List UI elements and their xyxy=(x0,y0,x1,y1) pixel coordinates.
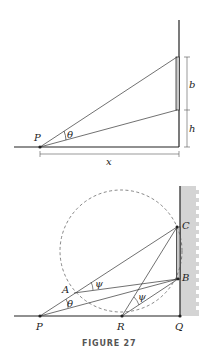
figure-caption: FIGURE 27 xyxy=(82,339,136,348)
psi-arc-a xyxy=(91,282,93,290)
painting-bar xyxy=(177,227,181,279)
line-pc xyxy=(40,227,177,316)
label-psi-a: ψ xyxy=(95,278,103,289)
point-b-dot xyxy=(177,278,180,281)
point-q-dot xyxy=(178,314,181,317)
line-rb xyxy=(122,279,178,316)
line-rc xyxy=(122,227,177,316)
label-p: P xyxy=(33,132,41,143)
painting-bar xyxy=(176,57,180,110)
bottom-figure: A B C P R Q θ ψ ψ FIGURE 27 xyxy=(14,186,199,348)
figure-canvas: P θ b h x xyxy=(0,0,213,363)
point-c-dot xyxy=(176,226,179,229)
label-q: Q xyxy=(175,321,183,332)
point-p-dot xyxy=(38,145,41,148)
line-ab xyxy=(74,279,178,293)
point-r-dot xyxy=(120,314,123,317)
label-b: B xyxy=(181,272,189,283)
dashed-circle xyxy=(60,190,182,312)
label-h: h xyxy=(189,123,195,134)
top-figure: P θ b h x xyxy=(14,20,195,167)
theta-arc xyxy=(64,131,66,140)
label-a: A xyxy=(61,284,69,295)
label-psi-r: ψ xyxy=(138,291,146,302)
label-p: P xyxy=(35,321,43,332)
line-pb xyxy=(40,279,178,316)
label-theta: θ xyxy=(67,129,73,140)
label-b: b xyxy=(189,79,195,90)
wall-hatch xyxy=(180,186,199,316)
label-r: R xyxy=(116,321,125,332)
sight-line-top xyxy=(40,57,177,147)
point-p-dot xyxy=(38,314,41,317)
label-theta: θ xyxy=(67,298,73,309)
label-x: x xyxy=(106,156,112,167)
sight-line-bottom xyxy=(40,110,177,147)
label-c: C xyxy=(182,220,190,231)
